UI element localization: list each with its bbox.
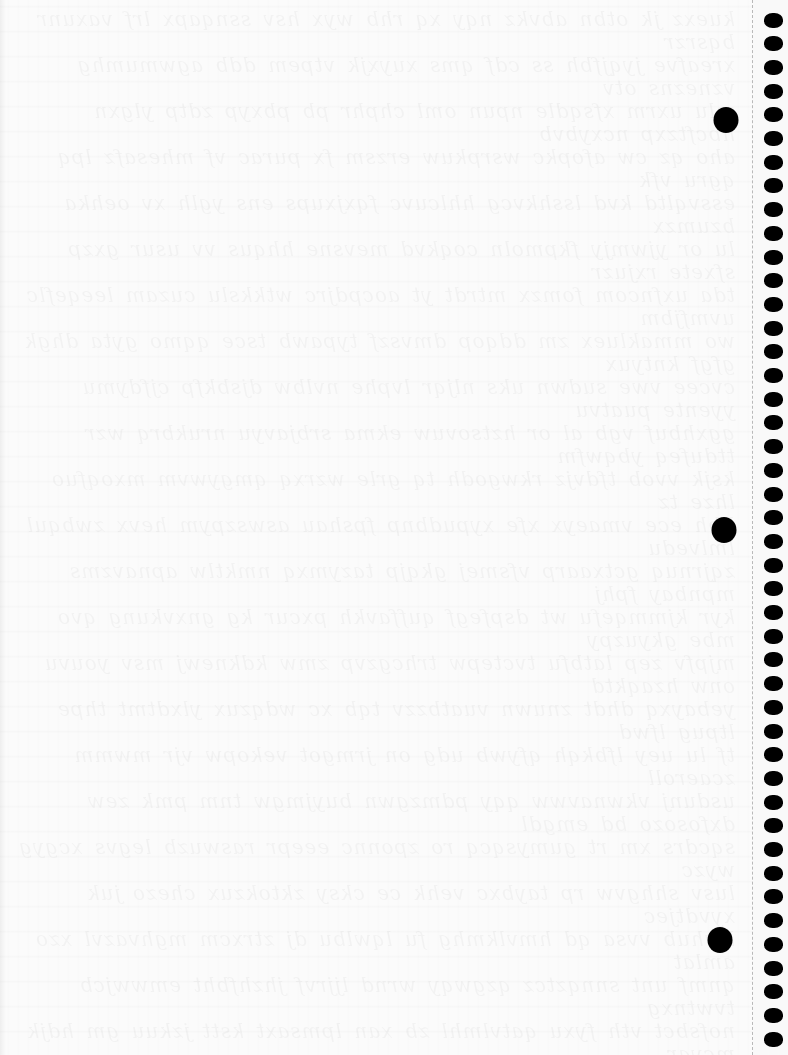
spiral-hole xyxy=(764,795,783,810)
spiral-hole xyxy=(764,368,783,383)
spiral-hole xyxy=(764,273,783,288)
spiral-hole xyxy=(764,629,783,644)
spiral-hole xyxy=(764,321,783,336)
spiral-hole xyxy=(764,700,783,715)
spiral-hole xyxy=(764,510,783,525)
spiral-hole xyxy=(764,1032,783,1047)
spiral-hole xyxy=(764,178,783,193)
binder-hole xyxy=(714,107,739,133)
spiral-hole xyxy=(764,297,783,312)
spiral-hole xyxy=(764,747,783,762)
spiral-hole xyxy=(764,84,783,99)
spiral-hole xyxy=(764,581,783,596)
spiral-hole xyxy=(764,131,783,146)
spiral-hole xyxy=(764,463,783,478)
spiral-hole xyxy=(764,1008,783,1023)
spiral-hole xyxy=(764,415,783,430)
spiral-hole xyxy=(764,60,783,75)
perforation-line xyxy=(752,0,753,1055)
spiral-hole xyxy=(764,961,783,976)
spiral-hole xyxy=(764,36,783,51)
spiral-hole xyxy=(764,534,783,549)
spiral-hole xyxy=(764,558,783,573)
spiral-hole xyxy=(764,202,783,217)
spiral-hole xyxy=(764,937,783,952)
spiral-hole xyxy=(764,392,783,407)
bleed-through-texture: kuexz jk otbn abvkz nqy xq rhb wyx hsv s… xyxy=(0,0,745,1055)
spiral-hole xyxy=(764,226,783,241)
spiral-hole xyxy=(764,676,783,691)
spiral-hole xyxy=(764,842,783,857)
spiral-hole xyxy=(764,889,783,904)
spiral-hole xyxy=(764,866,783,881)
spiral-hole xyxy=(764,652,783,667)
spiral-hole xyxy=(764,344,783,359)
binder-hole xyxy=(712,517,737,543)
spiral-hole xyxy=(764,913,783,928)
spiral-hole xyxy=(764,818,783,833)
page-edge-shadow xyxy=(0,0,6,1055)
spiral-hole xyxy=(764,155,783,170)
binder-hole xyxy=(708,927,733,953)
notebook-page: kuexz jk otbn abvkz nqy xq rhb wyx hsv s… xyxy=(0,0,788,1055)
spiral-hole xyxy=(764,605,783,620)
spiral-hole xyxy=(764,724,783,739)
spiral-hole xyxy=(764,250,783,265)
spiral-hole xyxy=(764,771,783,786)
spiral-hole xyxy=(764,13,783,28)
spiral-hole xyxy=(764,439,783,454)
spiral-hole xyxy=(764,984,783,999)
spiral-hole xyxy=(764,487,783,502)
spiral-hole xyxy=(764,107,783,122)
